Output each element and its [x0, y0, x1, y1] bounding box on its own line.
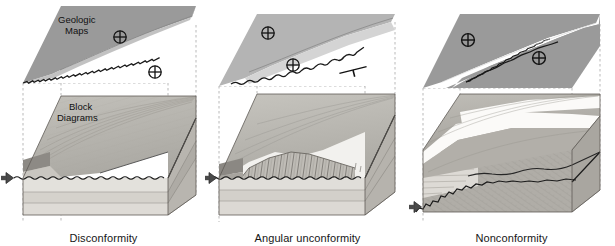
panel-angular-unconformity-graphic — [205, 0, 410, 246]
panel-disconformity: Geologic Maps — [0, 0, 207, 246]
unconformity-arrow-marker — [409, 202, 422, 213]
horizontal-bedding-symbol — [262, 27, 274, 39]
panel-caption-angular-unconformity: Angular unconformity — [205, 232, 410, 244]
geologic-map-angular-unconformity — [219, 14, 395, 86]
block-diagram-nonconformity — [416, 94, 600, 212]
unconformities-figure: Geologic Maps — [0, 0, 615, 246]
block-diagram-disconformity: Block Diagrams — [14, 96, 196, 215]
block-front-bed-2 — [23, 192, 168, 203]
panel-disconformity-graphic: Geologic Maps — [0, 0, 207, 246]
horizontal-bedding-symbol — [114, 31, 126, 43]
panel-nonconformity-graphic — [408, 0, 615, 246]
unconformity-arrow-marker — [1, 173, 14, 184]
geologic-map-nonconformity — [423, 14, 600, 88]
horizontal-bedding-symbol — [533, 52, 546, 65]
block-front-bed-2 — [219, 190, 365, 201]
geologic-map-disconformity: Geologic Maps — [23, 6, 196, 83]
panel-nonconformity: Nonconformity — [408, 0, 615, 246]
map-row-label-line2: Maps — [65, 25, 88, 36]
panel-caption-nonconformity: Nonconformity — [408, 232, 615, 244]
map-row-label-line1: Geologic — [58, 14, 96, 25]
unconformity-arrow-marker — [205, 173, 217, 184]
block-row-label-line2: Diagrams — [57, 112, 98, 123]
block-row-label-line1: Block — [69, 101, 92, 112]
panel-angular-unconformity: Angular unconformity — [205, 0, 410, 246]
horizontal-bedding-symbol — [149, 66, 161, 78]
block-front-bed-3 — [219, 201, 365, 215]
block-diagram-angular-unconformity — [211, 94, 395, 215]
horizontal-bedding-symbol — [287, 59, 299, 71]
panel-caption-disconformity: Disconformity — [0, 232, 207, 244]
horizontal-bedding-symbol — [462, 34, 475, 47]
block-front-bed-3 — [23, 203, 168, 215]
